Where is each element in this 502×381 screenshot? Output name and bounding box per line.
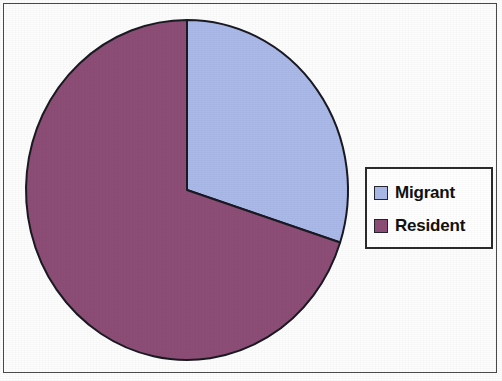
legend-swatch-resident — [374, 219, 388, 233]
legend-item-migrant[interactable]: Migrant — [374, 176, 485, 209]
legend-label-resident: Resident — [395, 217, 465, 234]
pie-chart-figure: Migrant Resident — [0, 0, 502, 381]
legend-label-migrant: Migrant — [395, 184, 455, 201]
pie-chart-svg — [20, 12, 360, 372]
plot-area: Migrant Resident — [0, 0, 502, 381]
pie-slice-group — [26, 20, 348, 360]
chart-legend: Migrant Resident — [365, 167, 493, 249]
legend-item-resident[interactable]: Resident — [374, 209, 485, 242]
legend-swatch-migrant — [374, 186, 388, 200]
